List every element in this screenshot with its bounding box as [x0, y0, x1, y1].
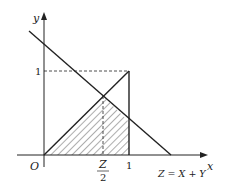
x-axis-label: x: [207, 160, 214, 173]
z-half-denominator: 2: [100, 172, 106, 183]
y-tick-one: 1: [35, 66, 41, 77]
y-axis-arrow-icon: [41, 12, 47, 20]
hatched-region: [44, 96, 129, 155]
diagram-canvas: y x O 1 1 Z 2 Z = X + Y: [0, 0, 225, 191]
x-axis-arrow-icon: [200, 152, 208, 158]
line-label: Z = X + Y: [157, 168, 207, 179]
origin-label: O: [30, 160, 39, 173]
x-tick-one: 1: [126, 160, 132, 171]
y-axis-label: y: [32, 12, 40, 25]
z-half-numerator: Z: [98, 158, 107, 171]
